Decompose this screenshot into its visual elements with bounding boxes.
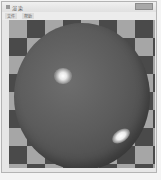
menu-bar: 文件 帮助 (2, 12, 156, 20)
menu-item-file[interactable]: 文件 (5, 13, 17, 19)
app-window: 渲染 文件 帮助 (1, 1, 157, 173)
rendered-sphere (14, 23, 150, 170)
render-canvas[interactable] (9, 20, 155, 170)
app-icon (6, 5, 10, 9)
menu-item-help[interactable]: 帮助 (22, 13, 34, 19)
close-button[interactable] (135, 3, 153, 10)
window-bottom-border (2, 168, 156, 172)
title-bar[interactable]: 渲染 (2, 2, 156, 12)
window-title: 渲染 (12, 4, 24, 11)
specular-highlight-upper (54, 68, 72, 84)
